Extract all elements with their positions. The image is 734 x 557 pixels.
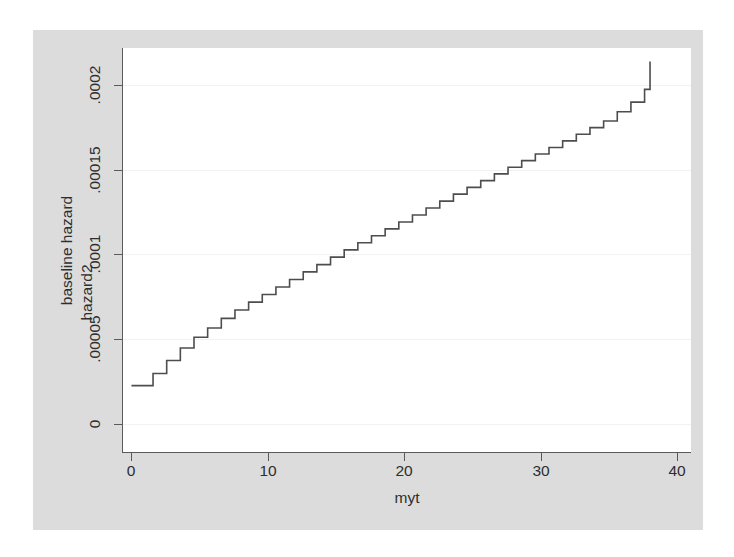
y-axis-title-inner: hazard2 <box>78 264 96 320</box>
gridline-y <box>123 339 691 340</box>
x-tick-mark <box>268 453 269 461</box>
x-tick-label: 30 <box>511 462 571 480</box>
x-tick-mark <box>677 453 678 461</box>
y-tick-mark <box>114 424 123 425</box>
y-tick-mark <box>114 339 123 340</box>
y-tick-label: 0 <box>86 420 104 429</box>
gridline-y <box>123 254 691 255</box>
y-tick-mark <box>114 170 123 171</box>
x-tick-mark <box>541 453 542 461</box>
y-tick-label: .00005 <box>86 315 104 362</box>
y-tick-label: .00015 <box>86 146 104 193</box>
gridline-y <box>123 85 691 86</box>
x-tick-label: 20 <box>374 462 434 480</box>
x-tick-mark <box>404 453 405 461</box>
y-tick-label: .0002 <box>86 66 104 105</box>
x-tick-label: 40 <box>647 462 707 480</box>
x-axis-title: myt <box>123 489 691 507</box>
gridline-y <box>123 424 691 425</box>
x-axis-line <box>122 452 691 453</box>
y-tick-mark <box>114 254 123 255</box>
y-tick-mark <box>114 85 123 86</box>
x-tick-label: 10 <box>238 462 298 480</box>
gridline-y <box>123 170 691 171</box>
x-tick-mark <box>131 453 132 461</box>
plot-area <box>123 48 691 453</box>
chart-screenshot: 0.00005.0001.00015.0002 010203040 baseli… <box>0 0 734 557</box>
y-axis-line <box>122 48 123 453</box>
y-axis-title-outer: baseline hazard <box>58 196 76 305</box>
x-tick-label: 0 <box>101 462 161 480</box>
